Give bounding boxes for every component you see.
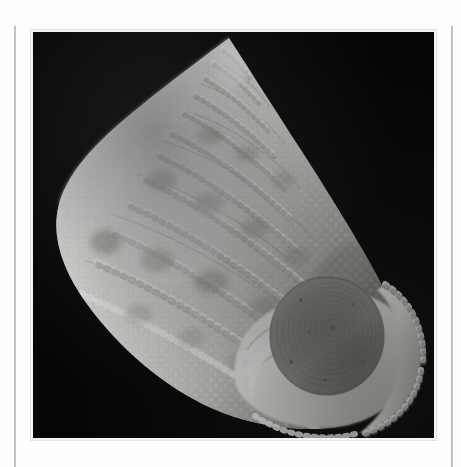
operculum-group xyxy=(270,277,384,395)
left-margin-rule xyxy=(14,26,16,467)
apex-highlight xyxy=(215,44,247,88)
plate-caption xyxy=(33,444,434,460)
specimen-photo-plate xyxy=(33,32,434,438)
shell-specimen-illustration xyxy=(33,32,434,438)
flank-highlight xyxy=(109,114,233,286)
right-margin-rule xyxy=(451,26,453,467)
document-page xyxy=(0,0,461,467)
